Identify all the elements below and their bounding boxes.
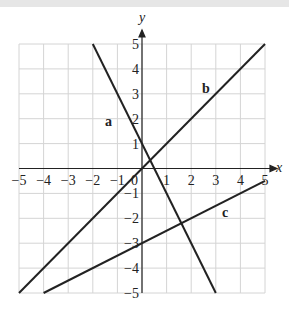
y-arrow-icon — [139, 30, 145, 37]
y-tick-label: 5 — [132, 37, 139, 52]
x-tick-label: 3 — [212, 173, 219, 188]
y-tick-label: −1 — [124, 186, 139, 201]
x-tick-label: 4 — [237, 173, 244, 188]
line-b-label: b — [202, 81, 210, 96]
line-c — [44, 181, 265, 293]
y-tick-label: −2 — [124, 211, 139, 226]
x-tick-label: −3 — [61, 173, 76, 188]
y-tick-label: 1 — [132, 137, 139, 152]
x-tick-label: 1 — [163, 173, 170, 188]
x-tick-label: −2 — [85, 173, 100, 188]
y-tick-label: 3 — [132, 87, 139, 102]
y-axis-label: y — [137, 10, 146, 25]
line-c-label: c — [222, 205, 228, 220]
x-tick-label: 5 — [262, 173, 269, 188]
y-tick-label: 4 — [132, 62, 139, 77]
x-tick-label: −1 — [110, 173, 125, 188]
y-tick-label: −4 — [124, 261, 139, 276]
y-tick-label: −5 — [124, 286, 139, 301]
x-tick-label: −5 — [12, 173, 27, 188]
coordinate-plane: −5−4−3−2−1012345−5−4−3−2−112345 y x a b … — [0, 0, 289, 310]
x-axis-label: x — [275, 160, 283, 175]
x-tick-label: 2 — [188, 173, 195, 188]
line-a-label: a — [105, 114, 112, 129]
x-tick-label: −4 — [36, 173, 51, 188]
